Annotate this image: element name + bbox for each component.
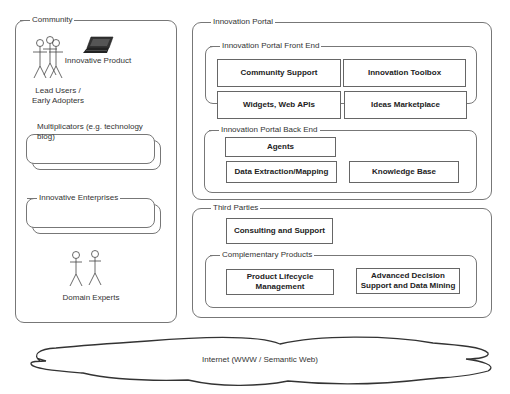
adsdm-line1: Advanced Decision xyxy=(371,271,445,281)
multiplicators-label-line2: blog) xyxy=(37,132,55,142)
consulting-support-box: Consulting and Support xyxy=(226,218,333,244)
community-support-box: Community Support xyxy=(217,59,341,87)
innovative-product-label: Innovative Product xyxy=(62,56,134,66)
internet-label: Internet (WWW / Semantic Web) xyxy=(180,355,340,365)
complementary-products-title: Complementary Products xyxy=(220,249,314,261)
innovative-enterprises-group: Innovative Enterprises xyxy=(26,198,155,228)
data-extraction-mapping-box: Data Extraction/Mapping xyxy=(226,161,337,183)
agents-box: Agents xyxy=(225,137,336,157)
lead-users-label-line2: Early Adopters xyxy=(28,96,88,106)
innovation-toolbox-box: Innovation Toolbox xyxy=(343,59,466,87)
innovative-enterprises-title: Innovative Enterprises xyxy=(37,192,120,204)
knowledge-base-box: Knowledge Base xyxy=(349,161,459,183)
adsdm-line2: Support and Data Mining xyxy=(361,281,456,291)
portal-front-end-title: Innovation Portal Front End xyxy=(220,40,321,52)
third-parties-title: Third Parties xyxy=(211,202,260,214)
widgets-web-apis-box: Widgets, Web APIs xyxy=(217,91,341,119)
plm-line1: Product Lifecycle xyxy=(247,272,314,282)
domain-experts-icon xyxy=(66,250,106,290)
plm-line2: Management xyxy=(256,282,305,292)
multiplicators-label-line1: Multiplicators (e.g. technology xyxy=(37,122,145,132)
ideas-marketplace-box: Ideas Marketplace xyxy=(344,91,467,119)
community-title: Community xyxy=(30,14,74,26)
innovation-portal-title: Innovation Portal xyxy=(211,16,275,28)
lead-users-label-line1: Lead Users / xyxy=(28,86,88,96)
product-lifecycle-box: Product Lifecycle Management xyxy=(226,269,334,295)
domain-experts-label: Domain Experts xyxy=(56,293,126,303)
laptop-icon xyxy=(83,36,115,54)
portal-back-end-title: Innovation Portal Back End xyxy=(219,124,320,136)
advanced-decision-support-box: Advanced Decision Support and Data Minin… xyxy=(356,268,460,294)
